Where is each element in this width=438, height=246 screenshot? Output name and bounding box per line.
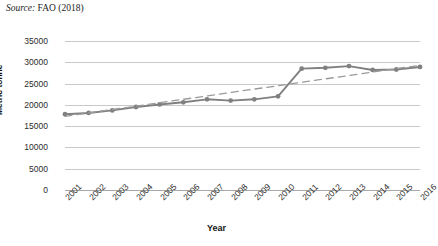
y-tick-label: 15000 [0, 121, 48, 131]
series-line [65, 65, 420, 116]
source-label: Source: [6, 3, 35, 13]
y-tick-label: 20000 [0, 100, 48, 110]
data-point-marker [347, 64, 352, 69]
y-tick-label: 10000 [0, 142, 48, 152]
line-chart: Metric tonne 050001000015000200002500030… [0, 18, 433, 246]
data-point-marker [205, 97, 210, 102]
data-point-marker [323, 65, 328, 70]
source-caption: Source: FAO (2018) [6, 2, 84, 14]
data-point-marker [252, 97, 257, 102]
y-tick-label: 35000 [0, 36, 48, 46]
series-plot [65, 41, 420, 190]
data-point-marker [418, 65, 423, 70]
data-point-marker [228, 98, 233, 103]
source-text: FAO (2018) [35, 3, 83, 13]
x-axis-title: Year [0, 223, 433, 233]
data-point-marker [276, 94, 281, 99]
y-tick-label: 0 [0, 185, 48, 195]
plot-area: 05000100001500020000250003000035000 2001… [65, 41, 420, 190]
y-tick-label: 25000 [0, 79, 48, 89]
x-tick-label: 2016 [418, 182, 438, 202]
y-tick-label: 5000 [0, 164, 48, 174]
y-tick-label: 30000 [0, 57, 48, 67]
data-point-marker [181, 100, 186, 105]
data-point-marker [299, 66, 304, 71]
